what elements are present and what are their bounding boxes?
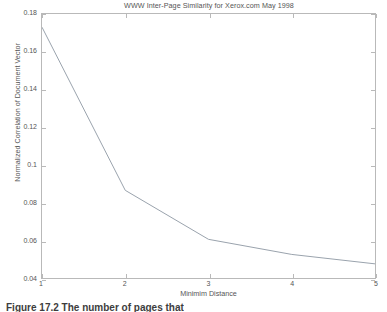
figure-caption: Figure 17.2 The number of pages that xyxy=(6,302,184,312)
x-tick-label: 4 xyxy=(282,280,302,287)
y-tick-mark-right xyxy=(371,52,375,53)
y-tick-mark xyxy=(42,90,46,91)
y-tick-mark xyxy=(42,204,46,205)
x-tick-label: 3 xyxy=(199,280,219,287)
x-tick-mark xyxy=(293,274,294,278)
x-tick-label: 2 xyxy=(115,280,135,287)
x-axis-label: Minimim Distance xyxy=(41,289,376,298)
y-tick-mark xyxy=(42,128,46,129)
x-tick-mark xyxy=(126,274,127,278)
figure-container: WWW Inter-Page Similarity for Xerox.com … xyxy=(0,0,387,312)
x-tick-mark-top xyxy=(293,14,294,18)
x-tick-mark-top xyxy=(210,14,211,18)
y-tick-mark xyxy=(42,166,46,167)
y-tick-mark-right xyxy=(371,128,375,129)
x-tick-label: 1 xyxy=(31,280,51,287)
x-tick-mark-top xyxy=(126,14,127,18)
x-tick-mark xyxy=(376,274,377,278)
y-tick-mark-right xyxy=(371,242,375,243)
x-tick-mark-top xyxy=(42,14,43,18)
x-tick-mark-top xyxy=(376,14,377,18)
y-tick-mark xyxy=(42,242,46,243)
y-tick-mark-right xyxy=(371,14,375,15)
chart-title: WWW Inter-Page Similarity for Xerox.com … xyxy=(41,1,377,10)
caption-text: The number of pages that xyxy=(62,302,184,312)
y-tick-mark xyxy=(42,52,46,53)
x-tick-mark xyxy=(42,274,43,278)
x-tick-label: 5 xyxy=(366,280,386,287)
data-series-line xyxy=(42,14,375,278)
x-tick-mark xyxy=(210,274,211,278)
y-axis-label: Normalized Correlation of Document Vecto… xyxy=(13,8,22,218)
y-tick-mark-right xyxy=(371,204,375,205)
y-tick-label: 0.06 xyxy=(0,237,37,244)
y-tick-mark-right xyxy=(371,90,375,91)
plot-area xyxy=(41,13,376,279)
y-tick-mark-right xyxy=(371,166,375,167)
caption-label: Figure 17.2 xyxy=(6,302,59,312)
